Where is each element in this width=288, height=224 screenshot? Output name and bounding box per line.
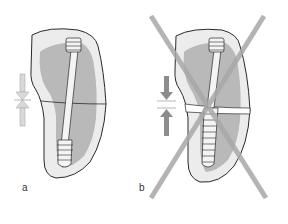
screw-threads-a [57,140,73,167]
screw-head-b [209,38,224,52]
panel-b [151,16,266,198]
panel-label-a: a [22,182,28,193]
compression-arrows-a [14,74,31,126]
panel-a [14,29,106,178]
compression-arrows-b [157,76,176,136]
screw-head-a [66,38,81,52]
panel-label-b: b [139,182,145,193]
